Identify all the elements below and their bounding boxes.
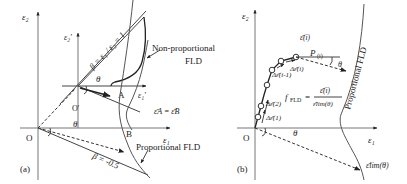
theta-label-prime: θ bbox=[96, 74, 101, 84]
e2-axis-label-b: ε₂ bbox=[242, 11, 249, 21]
f-fld-symbol: f bbox=[285, 92, 289, 102]
frac-numerator: ε̄(i) bbox=[320, 86, 331, 95]
equal-label: ε̄A = ε̄B bbox=[154, 107, 179, 116]
f-fld-sub: FLD bbox=[290, 97, 302, 103]
e2-prime-label: ε₂' bbox=[64, 33, 72, 42]
panel-b: ε₂ ε₁ O (b) Δε̄(1) Δε̄(2) Δε̄(i-1) Δε̄(i… bbox=[237, 4, 389, 180]
d-eps-1-arrow bbox=[262, 110, 265, 123]
theta-label-p: θ bbox=[338, 60, 342, 69]
prop-label-b: Proportional FLD bbox=[342, 45, 368, 110]
arrow-to-a bbox=[80, 88, 110, 96]
panel-b-label: (b) bbox=[237, 164, 248, 174]
prop-label: Proportional FLD bbox=[136, 142, 201, 152]
theta-label-main: θ bbox=[73, 119, 78, 129]
origin-prime-label: O' bbox=[72, 104, 80, 113]
origin-label: O bbox=[26, 133, 33, 143]
point-b-label: B bbox=[126, 129, 132, 139]
panel-a: ε₂ ε₁ O (a) ε₂' ε₁' O' β = ε₁ / ε₂ = 1 β… bbox=[20, 0, 215, 180]
eps-lim-label: ε̄lim(θ) bbox=[366, 161, 389, 170]
e1-axis-label-b: ε₁ bbox=[368, 135, 375, 145]
d-eps-2-label: Δε̄(2) bbox=[265, 100, 282, 108]
d-eps-1-label: Δε̄(1) bbox=[265, 114, 282, 122]
path-o-to-o-prime bbox=[38, 88, 76, 128]
theta-arc-p bbox=[330, 57, 332, 65]
e2-axis-label: ε₂ bbox=[22, 12, 29, 22]
non-proportional-fld-curve bbox=[126, 40, 148, 130]
frac-denominator: ε̄lim(θ) bbox=[313, 100, 333, 108]
e1-prime-label: ε₁' bbox=[138, 91, 146, 100]
d-eps-i-label: Δε̄(i) bbox=[289, 65, 304, 73]
nonprop-label-1: Non-proportional bbox=[152, 43, 215, 53]
beta-neg-label: β = -0.5 bbox=[90, 150, 120, 170]
nonprop-label-2: FLD bbox=[185, 56, 203, 66]
theta-label-b: θ bbox=[293, 128, 298, 138]
beta-1-label: β = ε₁ / ε₂ = 1 bbox=[86, 30, 127, 72]
d-eps-i-1-label: Δε̄(i-1) bbox=[271, 71, 292, 79]
panel-a-label: (a) bbox=[20, 164, 30, 174]
d-eps-i-arrow bbox=[286, 60, 295, 62]
fld-diagram: ε₂ ε₁ O (a) ε₂' ε₁' O' β = ε₁ / ε₂ = 1 β… bbox=[0, 0, 407, 184]
equals-sign: = bbox=[305, 92, 310, 102]
origin-label-b: O bbox=[243, 133, 250, 143]
eps-bar-i-label: ε̄(i) bbox=[300, 33, 311, 42]
